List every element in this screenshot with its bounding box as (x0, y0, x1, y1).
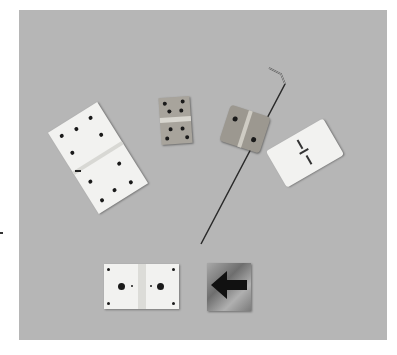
margin-mark (0, 232, 3, 234)
white-square-hinge-two-large-holes (104, 264, 179, 309)
arrow-left-icon (207, 263, 251, 311)
hinge-pin-stub (75, 170, 81, 172)
hinges-photo (19, 10, 387, 340)
metal-plate-with-black-arrow (207, 263, 251, 311)
large-white-perforated-hinge (48, 102, 148, 214)
small-metal-pinned-hinge (158, 96, 192, 145)
